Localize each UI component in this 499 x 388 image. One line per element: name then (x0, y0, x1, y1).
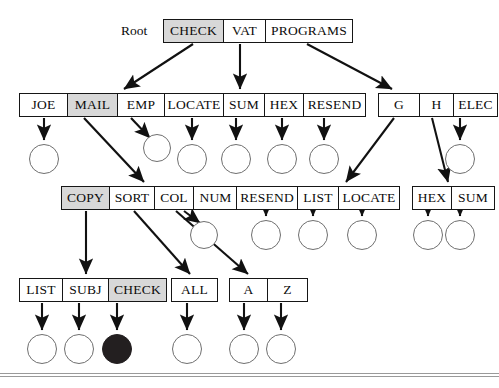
cell-mail[interactable]: MAIL (68, 94, 118, 116)
cell-list[interactable]: LIST (20, 279, 63, 301)
cell-hex[interactable]: HEX (265, 94, 304, 116)
level-2-row-group-2: HEXSUM (412, 186, 495, 210)
level-1-row-group-2: GHELEC (378, 93, 498, 117)
leaf-node[interactable] (143, 134, 171, 162)
cell-subj[interactable]: SUBJ (63, 279, 109, 301)
edge-emp-to-n2 (131, 118, 150, 138)
edge-programs-to-g-group (307, 44, 392, 89)
footer-rule-2 (0, 376, 499, 377)
leaf-node[interactable] (27, 334, 57, 364)
cell-resend[interactable]: RESEND (304, 94, 365, 116)
leaf-node-selected[interactable] (102, 334, 132, 364)
leaf-node[interactable] (413, 220, 443, 250)
leaf-node[interactable] (309, 144, 339, 174)
cell-locate[interactable]: LOCATE (339, 187, 399, 209)
leaf-node[interactable] (445, 144, 475, 174)
cell-check[interactable]: CHECK (109, 279, 166, 301)
level-1-row-group-1: LOCATESUMHEXRESEND (164, 93, 366, 117)
cell-sort[interactable]: SORT (110, 187, 155, 209)
level-3-row-group-1: ALL (171, 278, 218, 302)
cell-sum[interactable]: SUM (452, 187, 494, 209)
leaf-node[interactable] (177, 144, 207, 174)
cell-joe[interactable]: JOE (20, 94, 68, 116)
cell-num[interactable]: NUM (194, 187, 237, 209)
root-label: Root (121, 23, 147, 39)
level-2-row-group-1: RESENDLISTLOCATE (236, 186, 400, 210)
cell-copy[interactable]: COPY (62, 187, 110, 209)
level-1-row-group-0: JOEMAILEMP (19, 93, 165, 117)
cell-check[interactable]: CHECK (164, 20, 224, 42)
cell-resend[interactable]: RESEND (237, 187, 298, 209)
leaf-node[interactable] (64, 334, 94, 364)
level-2-row-group-0: COPYSORTCOLNUM (61, 186, 238, 210)
cell-a[interactable]: A (230, 279, 268, 301)
cell-emp[interactable]: EMP (118, 94, 164, 116)
leaf-node[interactable] (251, 220, 281, 250)
root-row-group-0: CHECKVATPROGRAMS (163, 19, 353, 43)
cell-vat[interactable]: VAT (224, 20, 266, 42)
level-3-row-group-0: LISTSUBJCHECK (19, 278, 167, 302)
footer-rule (0, 373, 499, 374)
cell-g[interactable]: G (379, 94, 420, 116)
cell-list[interactable]: LIST (298, 187, 339, 209)
cell-all[interactable]: ALL (172, 279, 217, 301)
leaf-node[interactable] (267, 144, 297, 174)
leaf-node[interactable] (29, 144, 59, 174)
diagram-canvas: Root CHECKVATPROGRAMSJOEMAILEMPLOCATESUM… (0, 0, 499, 388)
leaf-node[interactable] (298, 220, 328, 250)
leaf-node[interactable] (347, 220, 377, 250)
edge-mail-to-copy-group (84, 118, 144, 182)
leaf-node[interactable] (221, 144, 251, 174)
leaf-node[interactable] (172, 334, 202, 364)
cell-hex[interactable]: HEX (413, 187, 452, 209)
cell-h[interactable]: H (420, 94, 454, 116)
leaf-node[interactable] (445, 220, 475, 250)
cell-z[interactable]: Z (268, 279, 307, 301)
cell-col[interactable]: COL (155, 187, 194, 209)
edge-g-to-locate-2 (346, 118, 394, 182)
leaf-node[interactable] (229, 334, 259, 364)
cell-locate[interactable]: LOCATE (165, 94, 224, 116)
edge-sort-to-all (134, 211, 190, 274)
leaf-node[interactable] (190, 221, 218, 249)
edge-check-to-joe-group (124, 44, 193, 89)
edge-h-to-hex-2 (432, 118, 448, 182)
cell-sum[interactable]: SUM (224, 94, 265, 116)
cell-programs[interactable]: PROGRAMS (266, 20, 352, 42)
level-3-row-group-2: AZ (229, 278, 308, 302)
leaf-node[interactable] (266, 334, 296, 364)
cell-elec[interactable]: ELEC (454, 94, 497, 116)
